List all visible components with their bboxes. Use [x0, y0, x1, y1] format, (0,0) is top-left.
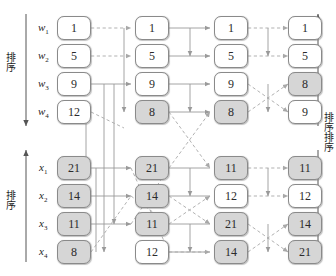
node-top-c3-r4[interactable]: 8	[214, 100, 248, 124]
node-bottom-c1-r4[interactable]: 8	[57, 240, 91, 264]
row-label-x3: x3	[39, 217, 47, 232]
node-bottom-c3-r3[interactable]: 21	[214, 212, 248, 236]
node-top-c1-r3[interactable]: 9	[57, 72, 91, 96]
row-label-w1: w1	[38, 21, 49, 36]
node-bottom-c4-r3[interactable]: 14	[288, 212, 322, 236]
node-bottom-c4-r1[interactable]: 11	[288, 156, 322, 180]
node-top-c2-r2[interactable]: 5	[135, 44, 169, 68]
node-top-c3-r3[interactable]: 9	[214, 72, 248, 96]
node-top-c3-r2[interactable]: 5	[214, 44, 248, 68]
sorting-network-diagram: w1 w2 w3 w4 x1 x2 x3 x4 排序 排序 排序 排序 1 5 …	[0, 0, 336, 276]
axis-caption-bottom-right: 排序	[322, 132, 332, 152]
row-label-x1: x1	[39, 161, 47, 176]
node-bottom-c3-r4[interactable]: 14	[214, 240, 248, 264]
axis-caption-top-right: 排序	[322, 112, 332, 132]
node-top-c4-r4[interactable]: 9	[288, 100, 322, 124]
node-bottom-c2-r1[interactable]: 21	[135, 156, 169, 180]
node-bottom-c1-r1[interactable]: 21	[57, 156, 91, 180]
node-top-c4-r3[interactable]: 8	[288, 72, 322, 96]
node-bottom-c3-r2[interactable]: 12	[214, 184, 248, 208]
node-bottom-c1-r3[interactable]: 11	[57, 212, 91, 236]
node-bottom-c2-r3[interactable]: 11	[135, 212, 169, 236]
node-bottom-c4-r2[interactable]: 12	[288, 184, 322, 208]
node-top-c4-r1[interactable]: 1	[288, 16, 322, 40]
network-wires	[0, 0, 336, 276]
row-label-w4: w4	[38, 105, 49, 120]
node-top-c1-r4[interactable]: 12	[57, 100, 91, 124]
node-top-c2-r3[interactable]: 9	[135, 72, 169, 96]
node-top-c1-r1[interactable]: 1	[57, 16, 91, 40]
node-top-c2-r4[interactable]: 8	[135, 100, 169, 124]
node-top-c4-r2[interactable]: 5	[288, 44, 322, 68]
node-bottom-c2-r4[interactable]: 12	[135, 240, 169, 264]
node-top-c3-r1[interactable]: 1	[214, 16, 248, 40]
axis-caption-top-left: 排序	[4, 52, 14, 72]
node-top-c2-r1[interactable]: 1	[135, 16, 169, 40]
dashed-wires	[91, 28, 288, 252]
row-label-x2: x2	[39, 189, 47, 204]
node-top-c1-r2[interactable]: 5	[57, 44, 91, 68]
node-bottom-c1-r2[interactable]: 14	[57, 184, 91, 208]
row-label-w3: w3	[38, 77, 49, 92]
row-label-w2: w2	[38, 49, 49, 64]
row-label-x4: x4	[39, 245, 47, 260]
node-bottom-c2-r2[interactable]: 14	[135, 184, 169, 208]
axis-caption-bottom-left: 排序	[4, 190, 14, 210]
node-bottom-c4-r4[interactable]: 21	[288, 240, 322, 264]
node-bottom-c3-r1[interactable]: 11	[214, 156, 248, 180]
